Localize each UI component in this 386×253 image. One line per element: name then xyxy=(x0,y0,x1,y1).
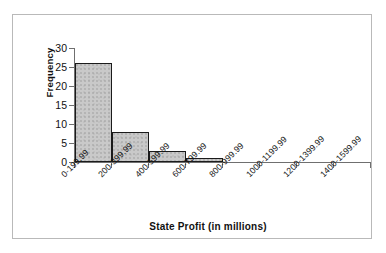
y-axis-tick xyxy=(69,105,74,106)
y-axis-tick-label: 20 xyxy=(27,81,67,92)
x-axis-tick xyxy=(259,163,260,168)
bar xyxy=(112,132,149,162)
x-axis-tick xyxy=(370,163,371,168)
y-axis-tick-label: 15 xyxy=(27,100,67,111)
y-axis-tick-label: 10 xyxy=(27,119,67,130)
plot-area xyxy=(75,48,371,162)
y-axis-tick xyxy=(69,86,74,87)
bar xyxy=(186,158,223,162)
x-axis-title: State Profit (in millions) xyxy=(53,221,363,232)
y-axis-tick-label: 30 xyxy=(27,43,67,54)
y-axis-tick-label: 25 xyxy=(27,62,67,73)
bar xyxy=(149,151,186,162)
y-axis-tick-label: 0 xyxy=(27,157,67,168)
x-axis-tick xyxy=(333,163,334,168)
y-axis-tick xyxy=(69,48,74,49)
x-axis-tick xyxy=(148,163,149,168)
bar xyxy=(75,63,112,162)
x-axis-tick xyxy=(74,163,75,168)
y-axis-tick xyxy=(69,124,74,125)
y-axis-tick-labels: 051015202530 xyxy=(23,15,67,240)
x-axis-tick xyxy=(185,163,186,168)
x-axis-tick xyxy=(111,163,112,168)
chart-frame: Frequency 051015202530 0-199.99200-399.9… xyxy=(12,14,372,239)
y-axis-tick xyxy=(69,67,74,68)
x-axis-tick xyxy=(222,163,223,168)
x-axis-tick xyxy=(296,163,297,168)
y-axis-tick-label: 5 xyxy=(27,138,67,149)
y-axis-tick xyxy=(69,143,74,144)
